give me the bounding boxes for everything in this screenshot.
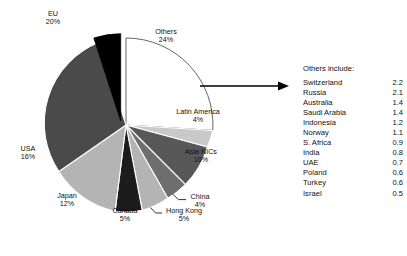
others-row-value: 0.7 <box>387 158 403 168</box>
others-row-name: Turkey <box>303 178 326 188</box>
others-row-value: 1.4 <box>387 98 403 108</box>
others-row-value: 2.1 <box>387 88 403 98</box>
pie-label-others: Others 24% <box>144 28 188 45</box>
others-row-name: S. Africa <box>303 138 331 148</box>
chart-canvas: EU 20% Others 24% Latin America 4% Asia … <box>0 0 407 256</box>
others-row: UAE 0.7 <box>303 158 403 168</box>
others-row-name: Switzerland <box>303 78 342 88</box>
others-row-name: UAE <box>303 158 319 168</box>
others-row-value: 0.6 <box>387 178 403 188</box>
others-row-name: Norway <box>303 128 329 138</box>
others-include-heading: Others include: <box>303 64 403 73</box>
annotation-arrow <box>200 82 289 91</box>
others-row-name: Australia <box>303 98 333 108</box>
others-row-value: 1.2 <box>387 118 403 128</box>
others-row: Switzerland 2.2 <box>303 78 403 88</box>
pie-label-usa: USA 16% <box>10 145 46 162</box>
others-row: Saudi Arabia 1.4 <box>303 108 403 118</box>
others-include-panel: Others include: Switzerland 2.2 Russia 2… <box>303 64 403 199</box>
pie-label-hong-kong: Hong Kong 5% <box>160 207 208 224</box>
others-row-value: 0.8 <box>387 148 403 158</box>
pie-label-canada: Canada 5% <box>105 207 145 224</box>
pie-label-japan: Japan 12% <box>48 192 86 209</box>
others-row: Indonesia 1.2 <box>303 118 403 128</box>
others-row-name: Saudi Arabia <box>303 108 346 118</box>
others-row: Russia 2.1 <box>303 88 403 98</box>
pie-label-asia-nics: Asia NICs 10% <box>178 148 224 165</box>
others-row-value: 2.2 <box>387 78 403 88</box>
others-row-name: Indonesia <box>303 118 336 128</box>
others-row: S. Africa 0.9 <box>303 138 403 148</box>
others-row-value: 0.9 <box>387 138 403 148</box>
others-row: Turkey 0.6 <box>303 178 403 188</box>
others-row: India 0.8 <box>303 148 403 158</box>
others-row-name: Israel <box>303 189 322 199</box>
others-row: Israel 0.5 <box>303 189 403 199</box>
others-row-value: 0.5 <box>387 189 403 199</box>
others-row: Poland 0.6 <box>303 168 403 178</box>
pie-label-eu: EU 20% <box>33 10 73 27</box>
others-row-name: Russia <box>303 88 326 98</box>
pie-label-latin-america: Latin America 4% <box>168 108 228 125</box>
leader-line-china <box>173 194 186 200</box>
others-row-value: 1.1 <box>387 128 403 138</box>
others-row-name: India <box>303 148 319 158</box>
others-row-name: Poland <box>303 168 327 178</box>
others-row: Australia 1.4 <box>303 98 403 108</box>
others-row: Norway 1.1 <box>303 128 403 138</box>
others-row-value: 0.6 <box>387 168 403 178</box>
others-row-value: 1.4 <box>387 108 403 118</box>
